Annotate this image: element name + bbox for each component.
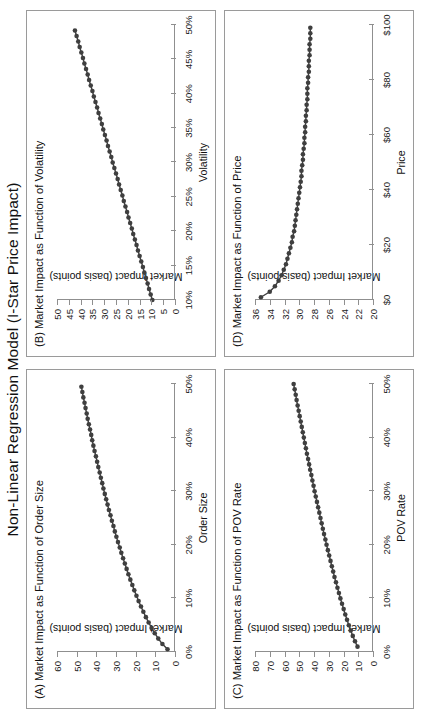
panel-a-yticklabel: 30 [111,661,122,672]
panel-b-ytick [104,300,105,305]
panel-d-ytick [255,300,256,305]
panel-c-xtick [369,383,374,384]
panel-d-xticklabel: $60 [381,127,392,143]
panel-c-yticklabel: 70 [264,661,275,672]
panel-c-yticklabel: 60 [279,661,290,672]
panel-a-xtick [171,383,176,384]
panel-c-series [255,384,373,652]
panel-b-xticklabel: 30% [183,153,194,172]
panel-a-yticklabel: 60 [52,661,63,672]
panel-b-xticklabel: 45% [183,50,194,69]
panel-a-ytick [175,652,176,657]
panel-b-ytick [175,300,176,305]
panel-d-plot: Market Impact (basis points) Price $0$20… [255,25,373,300]
panel-a-xticklabel: 40% [183,428,194,447]
panel-b-xticklabel: 50% [183,15,194,34]
panel-b-ytick [57,300,58,305]
panel-a-ytick [155,652,156,657]
panel-d-series [255,25,373,300]
panel-b-xtick [171,127,176,128]
panel-a-yticklabel: 10 [150,661,161,672]
panel-d-xticklabel: $0 [381,295,392,306]
panel-c-ytick [270,652,271,657]
panel-b-xtick [171,196,176,197]
panel-b-ytick [69,300,70,305]
panel-d-ytick [299,300,300,305]
panel-b-xticklabel: 35% [183,119,194,138]
panel-c-yticklabel: 30 [323,661,334,672]
panel-d-ytick [314,300,315,305]
panel-b-yticklabel: 0 [170,309,181,314]
panel-a-ytick [136,652,137,657]
panel-d-yticklabel: 26 [323,309,334,320]
panel-a-yticklabel: 40 [91,661,102,672]
panel-b-ytick [163,300,164,305]
panel-c-yticklabel: 20 [338,661,349,672]
panel-c-xticklabel: 10% [381,589,392,608]
panel-b-ytick [116,300,117,305]
panel-d-title: (D) Market Impact as Function of Price [231,156,243,348]
panel-c-plot: Market Impact (basis points) POV Rate 0%… [255,384,373,652]
panel-b-xtick [171,162,176,163]
panel-c-ytick [314,652,315,657]
panel-c-yticklabel: 50 [294,661,305,672]
panel-d-xtick [369,79,374,80]
panel-c-yticklabel: 10 [353,661,364,672]
panel-c-yticklabel: 40 [309,661,320,672]
panel-a-ytick [77,652,78,657]
panel-a-xticklabel: 0% [183,645,194,659]
panel-d-xtick [369,244,374,245]
panel-d-yticklabel: 22 [353,309,364,320]
panel-b-xtick [171,24,176,25]
panel-b-yticklabel: 35 [87,309,98,320]
panel-c-ytick [299,652,300,657]
panel-a-xticklabel: 50% [183,374,194,393]
panel-b-yticklabel: 30 [99,309,110,320]
panel-c-ytick [255,652,256,657]
panel-d-ytick [329,300,330,305]
panel-d-ytick [270,300,271,305]
panel-d-xticklabel: $80 [381,72,392,88]
panel-d-yticklabel: 28 [309,309,320,320]
panel-b-yticklabel: 50 [52,309,63,320]
panel-a-yticklabel: 50 [71,661,82,672]
panel-c-xticklabel: 50% [381,374,392,393]
rotated-page-stage: Non-Linear Regression Model (I-Star Pric… [0,0,425,719]
panel-d-ytick [285,300,286,305]
panel-b-xtick [171,58,176,59]
panel-c-ytick [285,652,286,657]
panel-b: (B) Market Impact as Function of Volatil… [26,10,216,357]
panel-b-yticklabel: 45 [63,309,74,320]
panel-c: (C) Market Impact as Function of POV Rat… [224,369,414,709]
panel-c-xtick [369,544,374,545]
panel-b-xticklabel: 20% [183,222,194,241]
panel-c-xticklabel: 20% [381,535,392,554]
panel-a-title: (A) Market Impact as Function of Order S… [33,480,45,699]
panel-c-xtick [369,597,374,598]
panel-d-ytick [344,300,345,305]
panel-a-ytick [96,652,97,657]
panel-d-yticklabel: 30 [294,309,305,320]
panel-b-xlabel: Volatility [197,25,209,300]
panel-d-xlabel: Price [395,25,407,300]
panel-b-series [57,25,175,300]
panel-d-xtick [369,24,374,25]
panel-b-ytick [81,300,82,305]
panel-b-xticklabel: 40% [183,84,194,103]
panel-b-xticklabel: 15% [183,256,194,275]
panel-b-plot: Market Impact (basis points) Volatility … [57,25,175,300]
panel-a-xtick [171,490,176,491]
panel-b-ytick [140,300,141,305]
panel-a-yticklabel: 0 [170,661,181,666]
panel-d-xtick [369,134,374,135]
panel-d-ytick [373,300,374,305]
panel-c-xticklabel: 40% [381,428,392,447]
panel-b-yticklabel: 5 [158,309,169,314]
panel-d-yticklabel: 20 [368,309,379,320]
panel-c-xtick [369,437,374,438]
panel-a-yticklabel: 20 [130,661,141,672]
panel-b-yticklabel: 40 [75,309,86,320]
panel-b-title: (B) Market Impact as Function of Volatil… [33,141,45,347]
panel-a-ytick [116,652,117,657]
panel-b-ytick [128,300,129,305]
